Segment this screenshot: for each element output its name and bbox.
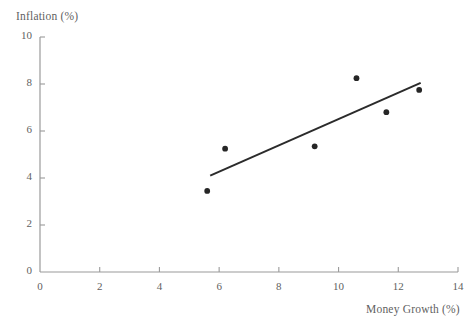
y-tick-label: 2	[10, 217, 32, 229]
x-tick-label: 8	[268, 280, 290, 292]
x-tick-label: 2	[89, 280, 111, 292]
y-tick-label: 0	[10, 264, 32, 276]
plot-area	[0, 0, 475, 325]
x-tick-label: 14	[447, 280, 469, 292]
y-tick-label: 10	[10, 29, 32, 41]
y-tick-label: 8	[10, 76, 32, 88]
tick-marks	[40, 37, 458, 272]
x-tick-label: 12	[387, 280, 409, 292]
x-tick-label: 0	[29, 280, 51, 292]
scatter-chart: Inflation (%) Money Growth (%) 024681012…	[0, 0, 475, 325]
x-tick-label: 4	[148, 280, 170, 292]
axis-lines	[40, 37, 458, 272]
x-tick-label: 6	[208, 280, 230, 292]
data-points	[204, 75, 422, 194]
y-tick-label: 6	[10, 123, 32, 135]
x-tick-label: 10	[328, 280, 350, 292]
y-tick-label: 4	[10, 170, 32, 182]
trend-line	[210, 83, 420, 176]
